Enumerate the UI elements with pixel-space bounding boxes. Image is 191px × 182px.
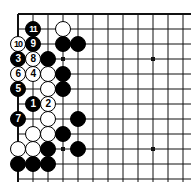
stone-move-8: 8	[25, 51, 41, 67]
stone-black-c4	[55, 66, 71, 82]
stone-move-number: 2	[45, 99, 50, 109]
stone-move-6: 6	[10, 66, 26, 82]
stone-black-b10	[25, 156, 41, 172]
stone-move-5: 5	[10, 81, 26, 97]
stone-move-number: 10	[14, 39, 22, 48]
stone-white-b8	[40, 126, 56, 142]
go-board-diagram: 1110938645127	[0, 0, 191, 182]
stone-move-11: 11	[25, 21, 41, 37]
stone-black-c2	[55, 36, 71, 52]
stone-move-3: 3	[10, 51, 26, 67]
stone-black-c10	[40, 156, 56, 172]
stone-move-9: 9	[25, 36, 41, 52]
stone-black-d7	[70, 111, 86, 127]
stone-black-d2	[70, 36, 86, 52]
stone-white-a9	[10, 141, 26, 157]
stone-move-number: 4	[30, 69, 35, 79]
stone-white-a8	[25, 126, 41, 142]
stone-white-b9	[25, 141, 41, 157]
stone-move-number: 5	[15, 84, 20, 94]
stone-move-number: 7	[15, 114, 20, 124]
stone-move-number: 11	[29, 24, 37, 33]
stone-move-number: 3	[15, 54, 20, 64]
stone-move-7: 7	[10, 111, 26, 127]
stone-black-a10	[10, 156, 26, 172]
stone-black-c9	[40, 141, 56, 157]
stone-move-number: 8	[30, 54, 35, 64]
stone-move-10: 10	[10, 36, 26, 52]
stone-move-number: 9	[30, 39, 35, 49]
stone-white-b7	[40, 111, 56, 127]
stone-move-4: 4	[25, 66, 41, 82]
stone-layer: 1110938645127	[0, 0, 191, 182]
stone-white-c1	[55, 21, 71, 37]
stone-move-2: 2	[40, 96, 56, 112]
stone-black-c5	[55, 81, 71, 97]
stone-white-b4	[40, 66, 56, 82]
stone-black-c8	[55, 126, 71, 142]
stone-black-e9	[70, 141, 86, 157]
stone-move-number: 1	[30, 99, 35, 109]
stone-move-1: 1	[25, 96, 41, 112]
stone-move-number: 6	[15, 69, 20, 79]
stone-black-b3	[40, 51, 56, 67]
stone-white-b5	[40, 81, 56, 97]
